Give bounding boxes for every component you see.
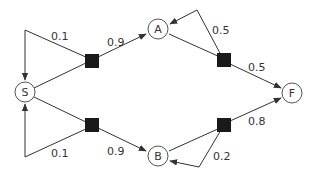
state-s: S — [15, 82, 35, 102]
prob-label-b-self: 0.2 — [213, 150, 231, 163]
state-b-label: B — [154, 150, 162, 163]
prob-label-s-top-self: 0.1 — [51, 30, 69, 43]
edge-s-to-action-bottom — [34, 97, 88, 123]
prob-label-b-to-f: 0.8 — [248, 115, 266, 128]
action-node-s-bottom — [85, 118, 99, 132]
prob-label-s-to-a: 0.9 — [107, 36, 125, 49]
state-b: B — [148, 146, 168, 166]
action-node-s-top — [85, 54, 99, 68]
prob-label-s-to-b: 0.9 — [107, 145, 125, 158]
edge-a-to-action — [169, 34, 220, 57]
action-node-b — [217, 118, 231, 132]
mdp-diagram: S A B F 0.1 0.9 0.5 0.5 0.1 0.9 0.8 0.2 — [0, 0, 314, 184]
prob-label-a-self: 0.5 — [212, 24, 230, 37]
prob-label-s-bottom-self: 0.1 — [51, 147, 69, 160]
state-a: A — [148, 19, 168, 39]
state-s-label: S — [22, 86, 29, 99]
edge-s-to-action-top — [34, 62, 88, 88]
action-node-a — [217, 53, 231, 67]
state-a-label: A — [154, 23, 162, 36]
prob-label-a-to-f: 0.5 — [248, 61, 266, 74]
state-f-label: F — [289, 87, 295, 100]
state-f: F — [282, 83, 302, 103]
edge-b-to-action — [169, 128, 220, 151]
